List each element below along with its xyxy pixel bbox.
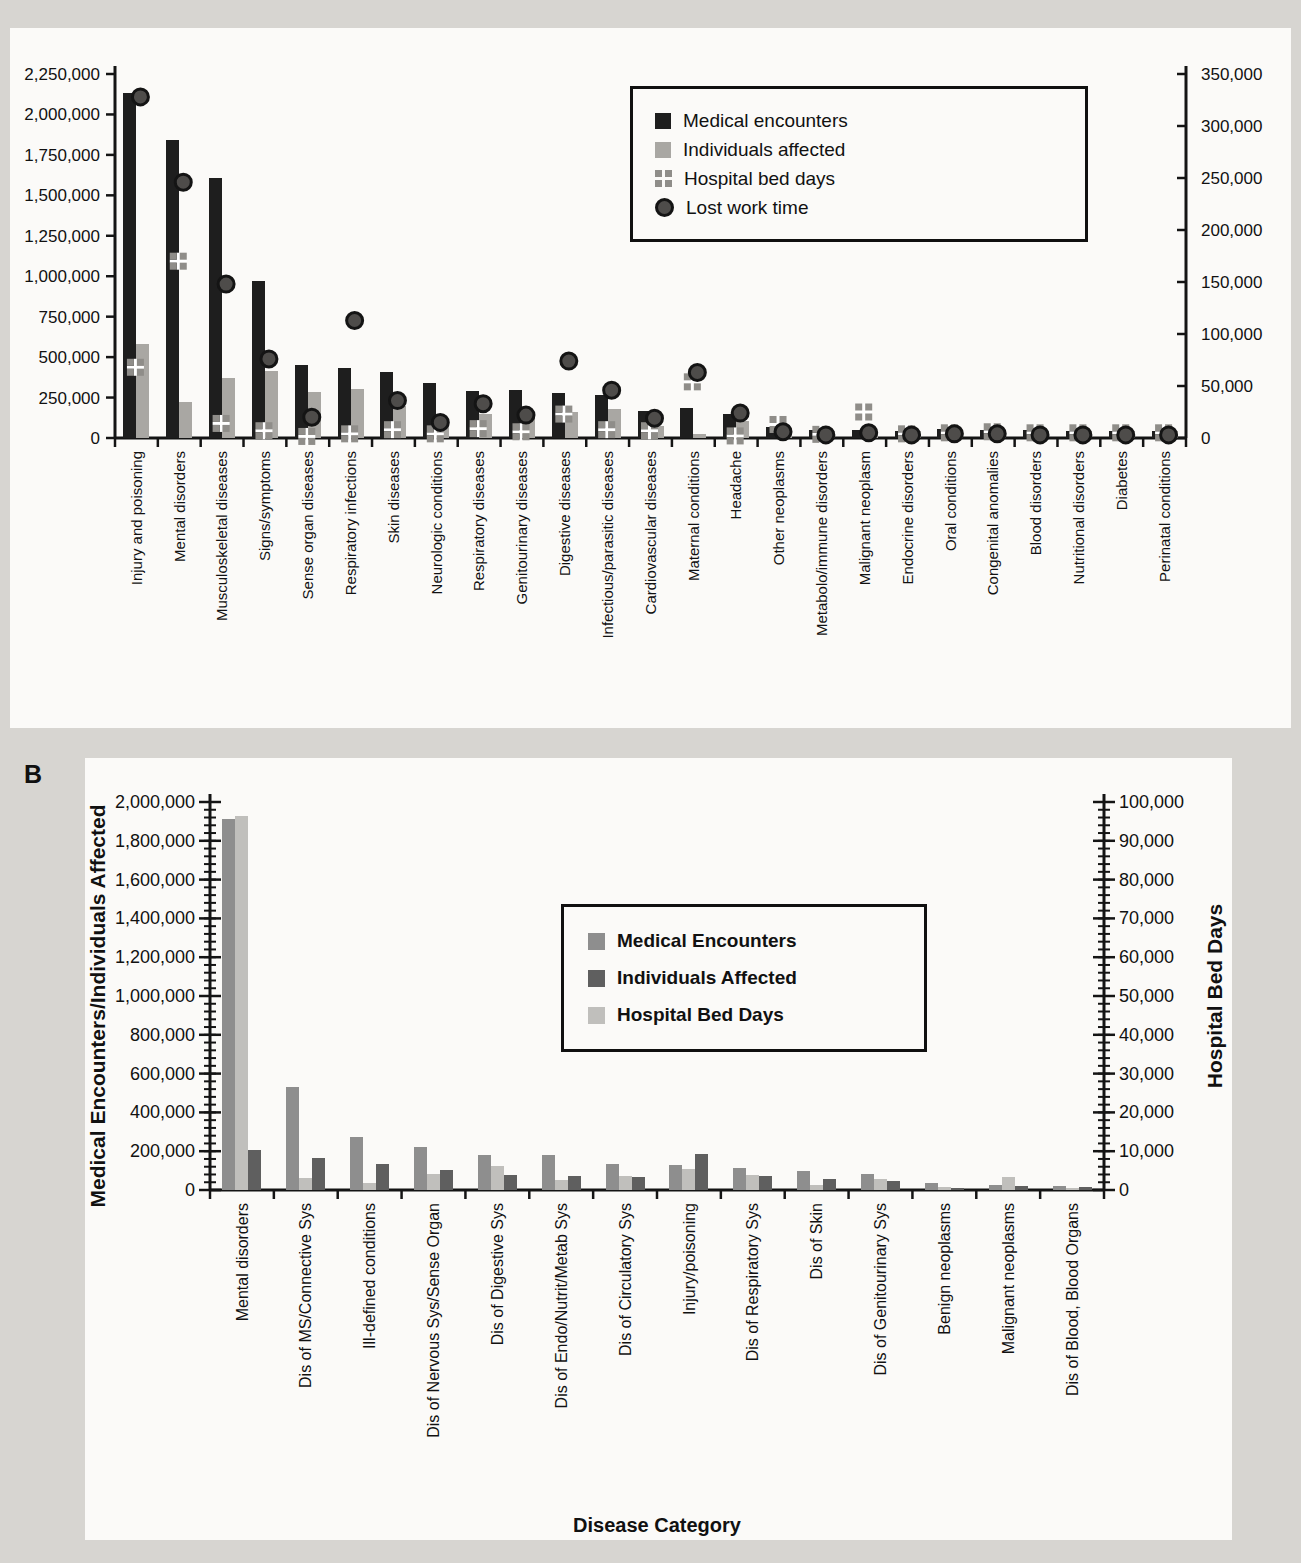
lost-work-time-marker xyxy=(1118,427,1134,443)
lost-work-time-marker xyxy=(1032,427,1048,443)
bar-individuals-affected xyxy=(312,1158,325,1190)
hospital-bed-days-marker xyxy=(598,421,615,438)
hospital-bed-days-marker xyxy=(255,422,272,439)
bar-individuals-affected xyxy=(887,1181,900,1190)
hospital-bed-days-marker xyxy=(555,406,572,423)
tick-label: 300,000 xyxy=(1201,117,1262,136)
lost-work-time-marker xyxy=(304,409,320,425)
tick-label: 0 xyxy=(1119,1180,1129,1200)
tick-label: 250,000 xyxy=(1201,169,1262,188)
category-label: Malignant neoplasm xyxy=(856,451,873,585)
lost-work-time-marker xyxy=(775,424,791,440)
category-label: Metabolo/immune disorders xyxy=(813,451,830,636)
category-label: Sense organ diseases xyxy=(299,451,316,599)
figure-two-panel-chart: A 0250,000500,000750,0001,000,0001,250,0… xyxy=(0,0,1301,1563)
hospital-bed-days-marker xyxy=(855,404,872,421)
bar-individuals-affected xyxy=(440,1170,453,1190)
bar-hospital-bed-days xyxy=(746,1175,759,1190)
bar-hospital-bed-days xyxy=(299,1178,312,1190)
category-label: Digestive diseases xyxy=(556,451,573,576)
legend-label: Individuals Affected xyxy=(617,967,797,989)
individuals-affected-swatch-icon xyxy=(655,142,671,158)
hospital-bed-days-swatch-icon xyxy=(588,1007,605,1024)
hospital-bed-days-marker xyxy=(384,421,401,438)
legend-label: Lost work time xyxy=(686,197,808,219)
tick-label: 100,000 xyxy=(1201,325,1262,344)
category-label: Respiratory infections xyxy=(342,451,359,595)
bar-individuals-affected xyxy=(136,344,149,438)
bar-hospital-bed-days xyxy=(938,1187,951,1190)
lost-work-time-marker xyxy=(261,351,277,367)
bar-medical-encounters xyxy=(414,1147,427,1190)
bar-individuals-affected xyxy=(632,1177,645,1190)
hospital-bed-days-marker xyxy=(341,425,358,442)
category-label: Diabetes xyxy=(1113,451,1130,510)
legend-item-lost-work-time: Lost work time xyxy=(655,197,1085,219)
category-label: Headache xyxy=(727,451,744,519)
bar-individuals-affected xyxy=(823,1179,836,1190)
category-label: Perinatal conditions xyxy=(1156,451,1173,582)
tick-label: 150,000 xyxy=(1201,273,1262,292)
bar-individuals-affected xyxy=(1079,1187,1092,1190)
category-label: Cardiovascular diseases xyxy=(642,451,659,614)
tick-label: 100,000 xyxy=(1119,792,1184,812)
bar-medical-encounters xyxy=(295,365,308,438)
bar-medical-encounters xyxy=(542,1155,555,1190)
hospital-bed-days-marker xyxy=(170,253,187,270)
tick-label: 0 xyxy=(1201,429,1210,448)
bar-hospital-bed-days xyxy=(682,1169,695,1190)
tick-label: 1,000,000 xyxy=(115,986,195,1006)
bar-medical-encounters xyxy=(209,178,222,438)
tick-label: 200,000 xyxy=(130,1141,195,1161)
lost-work-time-marker xyxy=(689,364,705,380)
category-label: Ill-defined conditions xyxy=(361,1203,378,1349)
legend-item-medical-encounters: Medical encounters xyxy=(655,110,1085,132)
bar-individuals-affected xyxy=(695,1154,708,1190)
tick-label: 70,000 xyxy=(1119,908,1174,928)
bar-hospital-bed-days xyxy=(1066,1188,1079,1190)
category-label: Mental disorders xyxy=(171,451,188,562)
bar-medical-encounters xyxy=(733,1168,746,1190)
category-label: Dis of Digestive Sys xyxy=(489,1203,506,1345)
lost-work-time-marker xyxy=(389,393,405,409)
tick-label: 90,000 xyxy=(1119,831,1174,851)
chart-b-canvas: 0200,000400,000600,000800,0001,000,0001,… xyxy=(85,758,1232,1540)
category-label: Malignant neoplasms xyxy=(1000,1203,1017,1354)
tick-label: 80,000 xyxy=(1119,870,1174,890)
legend-item-individuals-affected: Individuals Affected xyxy=(588,967,924,989)
tick-label: 40,000 xyxy=(1119,1025,1174,1045)
category-label: Dis of Nervous Sys/Sense Organ xyxy=(425,1203,442,1438)
lost-work-time-marker xyxy=(561,353,577,369)
tick-label: 2,000,000 xyxy=(115,792,195,812)
category-label: Musculoskeletal diseases xyxy=(213,451,230,621)
hospital-bed-days-marker xyxy=(470,420,487,437)
tick-label: 400,000 xyxy=(130,1102,195,1122)
category-label: Nutritional disorders xyxy=(1070,451,1087,584)
panel-a-chart: 0250,000500,000750,0001,000,0001,250,000… xyxy=(10,28,1291,728)
hospital-bed-days-marker xyxy=(727,427,744,444)
tick-label: 10,000 xyxy=(1119,1141,1174,1161)
legend-label: Hospital bed days xyxy=(684,168,835,190)
lost-work-time-marker xyxy=(818,427,834,443)
lost-work-time-marker xyxy=(175,174,191,190)
legend-item-hospital-bed-days: Hospital Bed Days xyxy=(588,1004,924,1026)
tick-label: 60,000 xyxy=(1119,947,1174,967)
bar-individuals-affected xyxy=(693,434,706,438)
lost-work-time-marker xyxy=(946,426,962,442)
category-label: Congenital anomalies xyxy=(984,451,1001,595)
category-label: Blood disorders xyxy=(1027,451,1044,555)
bar-individuals-affected xyxy=(179,402,192,438)
tick-label: 600,000 xyxy=(130,1064,195,1084)
category-label: Injury/poisoning xyxy=(681,1203,698,1315)
legend-item-hospital-bed-days: Hospital bed days xyxy=(655,168,1085,190)
tick-label: 1,250,000 xyxy=(24,227,100,246)
tick-label: 0 xyxy=(91,429,100,448)
bar-medical-encounters xyxy=(669,1165,682,1190)
lost-work-time-marker xyxy=(604,382,620,398)
tick-label: 1,400,000 xyxy=(115,908,195,928)
category-label: Mental disorders xyxy=(234,1203,251,1321)
lost-work-time-marker xyxy=(1161,427,1177,443)
legend-label: Medical encounters xyxy=(683,110,848,132)
tick-label: 30,000 xyxy=(1119,1064,1174,1084)
tick-label: 1,800,000 xyxy=(115,831,195,851)
